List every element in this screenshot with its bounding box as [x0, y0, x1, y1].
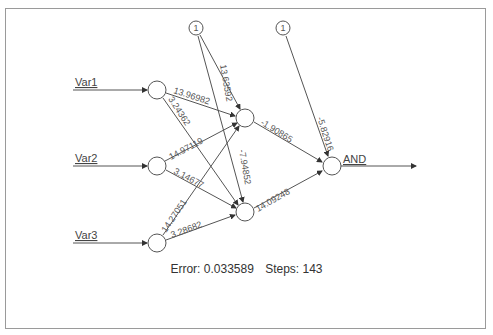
training-status: Error: 0.033589 Steps: 143: [0, 262, 493, 276]
input-node-2: [148, 157, 166, 175]
weight-bias1-h2: -7.94852: [237, 149, 253, 186]
error-value: Error: 0.033589: [170, 262, 253, 276]
steps-value: Steps: 143: [265, 262, 322, 276]
weight-h1-out: -1.90865: [259, 117, 294, 144]
weight-var2-h2: 3.14677: [172, 166, 205, 190]
hidden-node-1: [236, 109, 254, 127]
output-node: [323, 157, 341, 175]
weight-h2-out: 14.09248: [254, 186, 292, 213]
weight-bias1-h1: 13.63592: [218, 64, 234, 103]
input-label-var2: Var2: [75, 152, 97, 164]
input-node-1: [148, 81, 166, 99]
input-node-3: [148, 234, 166, 252]
weight-bias2-out: -5.82916: [315, 116, 335, 153]
output-label: AND: [343, 153, 366, 165]
bias-label-1: 1: [193, 23, 198, 33]
input-label-var3: Var3: [75, 229, 97, 241]
network-diagram: 1 1 Var1 Var2 Var3 AND 13.96982 3.24362 …: [0, 0, 493, 335]
hidden-node-2: [236, 203, 254, 221]
bias-label-2: 1: [280, 23, 285, 33]
input-label-var1: Var1: [75, 76, 97, 88]
